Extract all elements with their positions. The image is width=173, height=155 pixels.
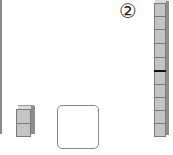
- rod-unit-line: [154, 84, 166, 85]
- rod-unit-line: [154, 43, 166, 44]
- ten-rod: [154, 3, 169, 137]
- cube-divider: [16, 123, 31, 124]
- rod-unit-line: [154, 16, 166, 17]
- rod-five-divider: [154, 70, 166, 72]
- rod-unit-line: [154, 110, 166, 111]
- cube-side: [31, 106, 35, 134]
- unit-cubes-stack: [16, 105, 35, 137]
- ten-rod-side: [166, 1, 169, 135]
- rod-unit-line: [154, 123, 166, 124]
- rod-unit-line: [154, 29, 166, 30]
- rod-unit-line: [154, 97, 166, 98]
- answer-box[interactable]: [57, 105, 99, 149]
- problem-number: ②: [119, 0, 137, 22]
- previous-problem-rod-edge: [0, 0, 2, 134]
- rod-unit-line: [154, 57, 166, 58]
